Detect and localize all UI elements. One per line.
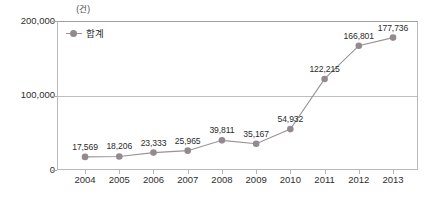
cropped-caption-strip [120,195,330,200]
x-axis-tick-mark [222,170,223,174]
data-point-marker [116,153,123,160]
data-point-value-label: 35,167 [226,129,286,139]
data-point-marker [219,137,226,144]
data-point-marker [150,149,157,156]
x-axis-tick-mark [290,170,291,174]
data-point-value-label: 54,932 [260,114,320,124]
data-point-marker [356,42,363,49]
x-axis-tick-mark [359,170,360,174]
data-point-value-label: 25,965 [158,136,218,146]
x-axis-tick-mark [85,170,86,174]
data-point-marker [287,126,294,133]
x-axis-tick-mark [393,170,394,174]
x-axis-tick-mark [325,170,326,174]
chart-container: (건) 0100,000200,000 17,56918,20623,33325… [0,0,444,202]
data-point-value-label: 122,215 [295,64,355,74]
x-axis-tick-mark [256,170,257,174]
x-axis-tick-mark [188,170,189,174]
data-point-marker [184,147,191,154]
legend-marker-icon [70,30,77,37]
legend-line-swatch [66,33,82,34]
legend-label-total: 합계 [86,26,104,40]
x-axis-tick-mark [119,170,120,174]
legend: 합계 [66,27,104,39]
data-point-marker [253,141,260,148]
data-point-value-label: 177,736 [363,23,423,33]
data-point-marker [321,76,328,83]
x-axis-tick-label: 2013 [370,174,416,185]
data-point-marker [82,154,89,161]
x-axis-tick-mark [153,170,154,174]
data-point-marker [390,34,397,41]
